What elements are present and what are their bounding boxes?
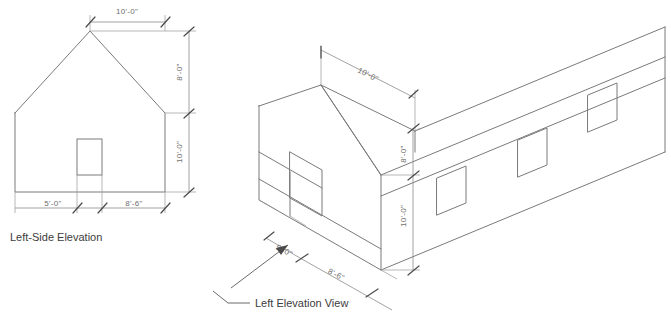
iso-wing-opening-1 [437, 166, 466, 215]
iso-window-to-corner-dimension-label: 8'-6" [326, 267, 346, 283]
iso-wing-eave-edge [381, 57, 665, 175]
iso-caption-leader-diagonal [213, 291, 228, 303]
isometric-view-group: 10'-0" 8'-0" 10'-0" 5'-0" 8'-6" Left Ele… [213, 27, 665, 310]
left-side-elevation-group: 10'-0" 8'-0" 10'-0" 5'-0" 8'-6" Left-Sid… [10, 7, 196, 243]
window-opening-left-elevation [77, 139, 102, 175]
iso-bottom-ext-line-a [259, 200, 275, 209]
roof-height-dimension-label: 8'-0" [175, 63, 184, 80]
ridge-width-dimension-label: 10'-0" [116, 7, 138, 16]
iso-wing-mid-edge [381, 78, 665, 196]
iso-window-offset-dimension-label: 5'-0" [274, 243, 294, 259]
iso-hip-line-front [321, 85, 381, 175]
iso-wing-base-edge [381, 152, 665, 270]
iso-roof-height-tick-bottom [408, 171, 419, 180]
iso-wall-height-dimension-label: 10'-0" [399, 205, 408, 227]
house-outline-left-elevation [15, 31, 165, 192]
window-to-corner-dimension-label: 8'-6" [125, 199, 142, 208]
left-elevation-caption: Left-Side Elevation [10, 231, 102, 243]
iso-bottom-ext-line-b [290, 216, 306, 226]
iso-wing-opening-3 [588, 83, 617, 132]
iso-roof-height-dimension-label: 8'-0" [399, 145, 408, 162]
iso-bottom-tick-b [296, 254, 308, 262]
iso-gable-wall [259, 85, 381, 270]
window-offset-dimension-label: 5'-0" [44, 199, 61, 208]
iso-hip-line-inner [321, 85, 415, 131]
architectural-drawing-canvas: 10'-0" 8'-0" 10'-0" 5'-0" 8'-6" Left-Sid… [0, 0, 671, 321]
iso-bottom-ext-line-c [381, 270, 397, 279]
iso-wall-height-tick-bottom [408, 266, 419, 275]
iso-ridge-width-dimension-label: 10'-0" [356, 66, 380, 84]
iso-bottom-tick-c [366, 289, 378, 297]
iso-bottom-tick-a [264, 232, 274, 240]
iso-wing-top-edge [415, 27, 665, 131]
iso-view-caption: Left Elevation View [255, 297, 348, 309]
wall-height-dimension-label: 10'-0" [175, 141, 184, 163]
iso-wing-opening-2 [518, 128, 547, 177]
iso-gable-mid-band-line [259, 179, 381, 249]
